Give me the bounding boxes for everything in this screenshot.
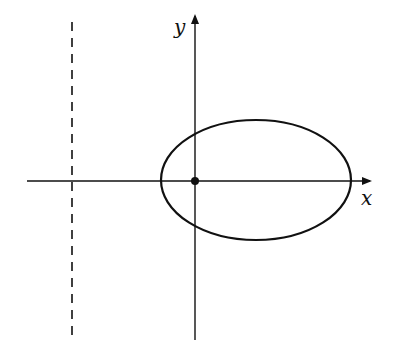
ellipse-curve [161,120,351,240]
x-axis-label: x [361,186,372,210]
ellipse-diagram: y x [0,0,395,351]
focus-point [191,177,199,185]
y-axis-label: y [173,15,186,39]
